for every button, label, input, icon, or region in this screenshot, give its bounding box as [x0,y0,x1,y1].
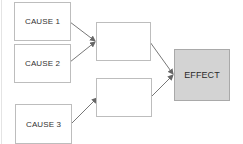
arrow-cause1-to-intermediate1 [70,22,95,41]
arrow-intermediate2-to-effect [151,75,173,97]
arrow-cause2-to-intermediate1 [70,42,95,62]
cause-1-box: CAUSE 1 [14,2,71,41]
cause-1-label: CAUSE 1 [25,17,60,26]
effect-box: EFFECT [174,49,230,101]
cause-2-box: CAUSE 2 [14,44,71,83]
cause-3-box: CAUSE 3 [15,104,72,144]
intermediate-1-box [96,22,151,61]
effect-label: EFFECT [184,70,220,80]
intermediate-2-box [96,78,152,117]
arrow-cause3-to-intermediate2 [71,98,97,124]
cause-3-label: CAUSE 3 [26,120,61,129]
cause-2-label: CAUSE 2 [25,59,60,68]
arrow-intermediate1-to-effect [150,42,173,74]
